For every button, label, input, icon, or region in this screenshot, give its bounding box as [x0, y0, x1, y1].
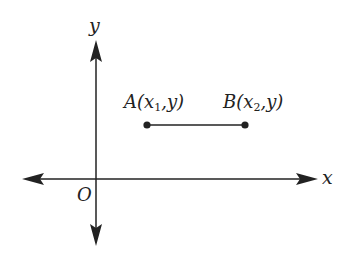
point-b-name: B [223, 91, 236, 112]
x-axis-label: x [322, 166, 333, 188]
point-b-label: B(x2,y) [223, 91, 283, 114]
point-a-label: A(x1,y) [124, 91, 184, 114]
point-a-dot [143, 121, 150, 128]
origin-label: O [77, 184, 92, 205]
point-b-var: x [243, 91, 253, 112]
point-a-var: x [144, 91, 154, 112]
y-axis-label: y [89, 14, 100, 36]
point-a-name: A [124, 91, 137, 112]
point-b-rest: ,y) [260, 91, 283, 112]
point-a-open: ( [137, 91, 144, 112]
coordinate-plane [0, 0, 352, 268]
point-b-dot [241, 121, 248, 128]
point-a-rest: ,y) [161, 91, 184, 112]
